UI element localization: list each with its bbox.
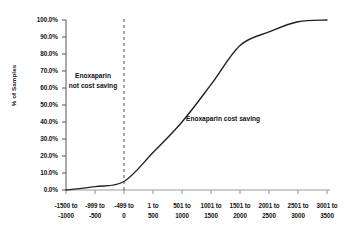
y-tick-label: 60.0%	[14, 84, 58, 91]
y-tick-label: 0.0%	[14, 186, 58, 193]
x-tick-label-9: 3001 to 3500	[304, 201, 350, 220]
x-tick-marks	[66, 190, 327, 194]
cumulative-curve	[66, 20, 327, 190]
x-tick-top: 3001 to	[304, 201, 350, 211]
annotation-cost-saving: Enoxaparin cost saving	[186, 114, 260, 124]
cumulative-cost-saving-chart: % of Samples 100.0% 90.0% 80.0% 70.0% 60…	[0, 0, 356, 232]
annotation-line-2: not cost saving	[62, 81, 124, 91]
y-tick-label: 20.0%	[14, 152, 58, 159]
y-tick-label: 70.0%	[14, 67, 58, 74]
y-tick-label: 30.0%	[14, 135, 58, 142]
annotation-not-cost-saving: Enoxaparin not cost saving	[62, 71, 124, 90]
y-tick-marks	[62, 20, 66, 190]
y-tick-label: 90.0%	[14, 33, 58, 40]
y-tick-label: 100.0%	[14, 16, 58, 23]
annotation-line-1: Enoxaparin	[62, 71, 124, 81]
y-tick-label: 10.0%	[14, 169, 58, 176]
y-tick-label: 40.0%	[14, 118, 58, 125]
x-tick-bottom: 3500	[304, 211, 350, 221]
y-tick-label: 80.0%	[14, 50, 58, 57]
y-tick-label: 50.0%	[14, 101, 58, 108]
